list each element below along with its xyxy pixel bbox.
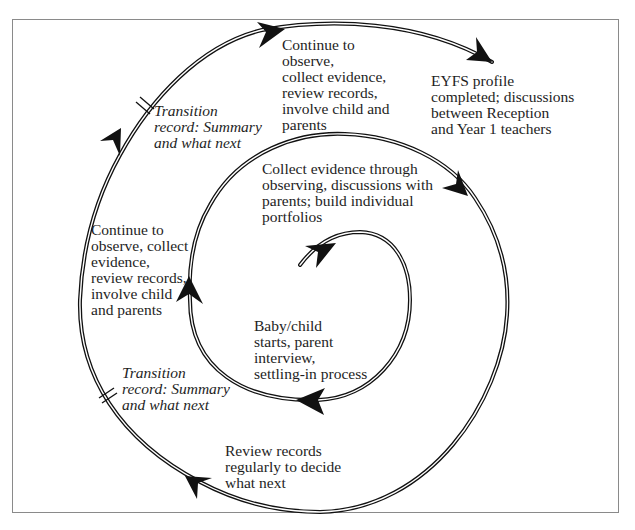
arrow-icon-outer-left xyxy=(100,128,121,156)
stage-review-records: Review records regularly to decide what … xyxy=(225,443,341,491)
stage-transition-lower: Transition record: Summary and what next xyxy=(122,365,230,413)
stage-continue-top: Continue to observe, collect evidence, r… xyxy=(282,37,390,133)
stage-collect-evidence: Collect evidence through observing, disc… xyxy=(262,161,433,225)
stage-baby-starts: Baby/child starts, parent interview, set… xyxy=(254,318,367,382)
stage-transition-upper: Transition record: Summary and what next xyxy=(154,103,262,151)
stage-eyfs-profile: EYFS profile completed; discussions betw… xyxy=(431,73,574,137)
stage-continue-left: Continue to observe, collect evidence, r… xyxy=(91,222,188,318)
